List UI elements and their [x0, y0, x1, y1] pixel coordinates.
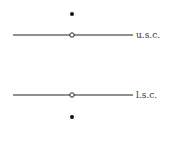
lower-open-circle: [70, 93, 74, 97]
lower-filled-dot: [70, 115, 74, 119]
upper-open-circle: [70, 33, 74, 37]
lower-label: l.s.c.: [136, 90, 157, 100]
semicontinuity-diagram: u.s.c. l.s.c.: [0, 0, 171, 141]
upper-label: u.s.c.: [136, 30, 160, 40]
upper-filled-dot: [70, 12, 74, 16]
